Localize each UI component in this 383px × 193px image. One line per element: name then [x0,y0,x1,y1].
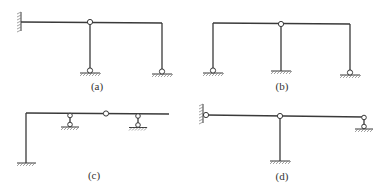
pin-icon [68,113,73,118]
pin-support-right [340,70,361,78]
pin-icon [362,124,367,129]
fixed-support-base [270,161,291,164]
wall-hatch-icon [199,104,203,124]
pin-icon [68,122,73,127]
pin-icon [87,68,92,73]
pin-support-left [203,68,224,76]
pin-icon [159,69,164,74]
hinge-icon [278,21,283,26]
link-support-2 [129,114,147,131]
pin-icon [136,114,141,119]
panel-a: (a) [17,12,173,93]
panel-label-b: (b) [276,80,289,93]
panel-label-d: (d) [276,170,289,183]
pin-icon [203,112,208,117]
panel-b: (b) [203,21,361,93]
panel-d: (d) [199,104,373,183]
pin-icon [347,70,352,75]
structural-frames-figure: (a) [0,0,383,193]
wall-hatch-icon [17,12,21,32]
beam [26,113,169,114]
pin-icon [210,68,215,73]
pin-icon [136,123,141,128]
panel-label-c: (c) [88,169,101,182]
pin-support-right [152,69,173,77]
fixed-support-base [17,163,36,166]
fixed-support-middle [271,71,292,74]
link-support-1 [61,113,79,130]
hinge-icon [277,113,282,118]
pin-icon [362,115,367,120]
beam [206,115,364,117]
hinge-icon [87,19,92,24]
pin-support-middle [80,68,101,76]
panel-label-a: (a) [91,80,104,93]
panel-c: (c) [17,111,169,182]
hinge-icon [103,111,108,116]
link-support-right [355,115,373,132]
